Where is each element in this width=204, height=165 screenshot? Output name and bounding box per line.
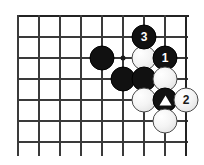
grid-line-vertical [80, 15, 82, 156]
grid-line-horizontal [18, 36, 188, 38]
move-number-label: 3 [141, 31, 147, 43]
grid-line-vertical [38, 15, 40, 156]
grid-line-horizontal [18, 141, 188, 143]
move-number-label: 2 [183, 94, 189, 106]
hoshi-point [121, 56, 126, 61]
grid-line-vertical [101, 15, 103, 156]
triangle-mark-icon [159, 95, 171, 105]
grid-line-vertical [59, 15, 61, 156]
white-move-2[interactable]: 2 [174, 88, 199, 113]
white-stone-bottom[interactable] [153, 109, 178, 134]
black-move-3[interactable]: 3 [132, 25, 157, 50]
black-stone-left[interactable] [90, 46, 115, 71]
board-edge-top [18, 15, 189, 18]
move-number-label: 1 [162, 52, 168, 64]
board-edge-right [185, 15, 188, 156]
go-board-diagram: 312 [0, 0, 204, 165]
grid-line-vertical [17, 15, 19, 156]
